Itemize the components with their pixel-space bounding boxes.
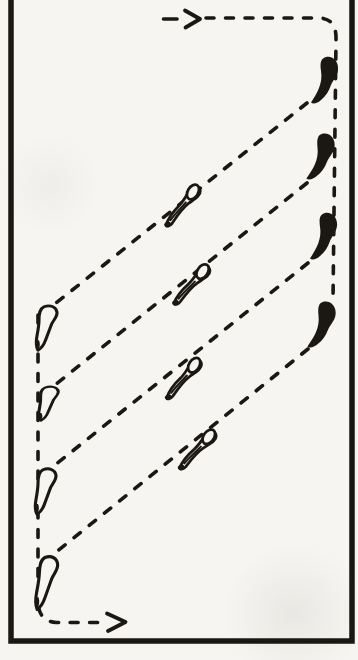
transect-line-3 [45, 263, 308, 473]
outline-comma-left-column-2 [37, 386, 59, 420]
filled-comma-right-column-2 [306, 133, 335, 181]
exit-arrowhead [107, 614, 126, 632]
filled-comma-right-column-4 [307, 301, 336, 349]
outline-tadpole-on-transect-1 [154, 180, 209, 228]
outline-comma-left-column-4 [35, 556, 58, 610]
outline-comma-left-column-1 [36, 306, 57, 351]
outline-comma-left-column-3 [35, 469, 56, 515]
entry-arrowhead [185, 11, 200, 28]
figure-frame [11, 0, 352, 641]
outline-tadpole-on-transect-2 [162, 260, 217, 307]
hand-drawn-path-figure [0, 0, 358, 660]
zigzag-route-diagram [0, 0, 358, 660]
outline-tadpole-on-transect-4 [168, 425, 223, 471]
